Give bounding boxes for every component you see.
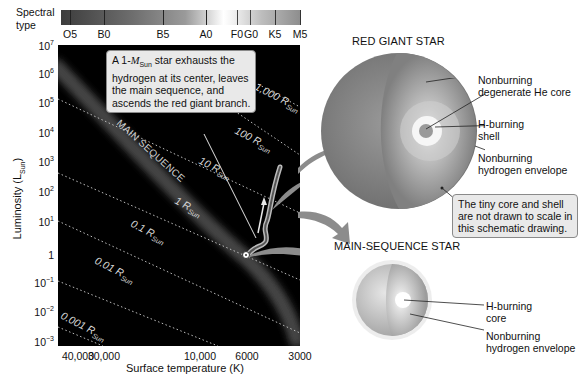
label-he-core: Nonburningdegenerate He core — [478, 74, 571, 98]
callout-line1: A 1-MSun star exhausts the — [112, 54, 250, 72]
x-tick: 6000 — [235, 350, 258, 362]
spectral-label-line1: Spectral — [16, 6, 55, 19]
y-tick: 106 — [18, 67, 54, 80]
y-axis-label: Luminosity (LSun) — [11, 139, 28, 259]
radius-label-0.01: 0.01 RSun — [92, 254, 137, 286]
spectral-A0: A0 — [200, 28, 213, 40]
radius-label-10: 10 RSun — [196, 154, 233, 182]
label-hydrogen-envelope: Nonburninghydrogen envelope — [478, 152, 567, 176]
spectral-type-label: Spectral type — [16, 6, 55, 32]
spectral-M5: M5 — [293, 28, 308, 40]
x-tick: 3000 — [288, 350, 311, 362]
callout-line2: hydrogen at its center, leaves — [112, 72, 250, 85]
y-tick: 10−2 — [18, 305, 54, 318]
spectral-B0: B0 — [98, 28, 111, 40]
track-direction-arrow-icon — [261, 197, 267, 205]
track-callout: A 1-MSun star exhausts the hydrogen at i… — [106, 50, 256, 113]
y-tick: 107 — [18, 39, 54, 52]
radius-label-1000: 1,000 RSun — [252, 80, 300, 115]
callout-line3: the main sequence, and — [112, 84, 250, 97]
radius-label-0.1: 0.1 RSun — [128, 217, 168, 247]
main-sequence-star-title: MAIN-SEQUENCE STAR — [334, 240, 460, 252]
spectral-F0: F0 — [231, 28, 243, 40]
spectral-O5: O5 — [63, 28, 77, 40]
x-tick: 10,000 — [184, 350, 216, 362]
callout-line4: ascends the red giant branch. — [112, 97, 250, 110]
ms-leader-lines — [400, 290, 490, 335]
spectral-B5: B5 — [157, 28, 170, 40]
y-tick: 105 — [18, 96, 54, 109]
scale-note-callout: The tiny core and shell are not drawn to… — [452, 194, 578, 238]
x-axis-label: Surface temperature (K) — [126, 362, 244, 374]
label-ms-hydrogen-envelope: Nonburninghydrogen envelope — [486, 330, 575, 354]
spectral-K5: K5 — [269, 28, 282, 40]
spectral-type-bar — [61, 10, 300, 25]
y-tick: 104 — [18, 126, 54, 139]
label-h-burning-shell: H-burningshell — [478, 118, 524, 142]
label-ms-h-burning-core: H-burningcore — [486, 300, 532, 324]
y-tick: 10−3 — [18, 335, 54, 348]
radius-label-0.001: 0.001 RSun — [58, 309, 108, 344]
y-tick: 10−1 — [18, 276, 54, 289]
x-tick: 30,000 — [88, 350, 120, 362]
spectral-label-line2: type — [16, 19, 55, 32]
radius-label-100: 100 RSun — [232, 124, 275, 155]
spectral-G0: G0 — [244, 28, 258, 40]
